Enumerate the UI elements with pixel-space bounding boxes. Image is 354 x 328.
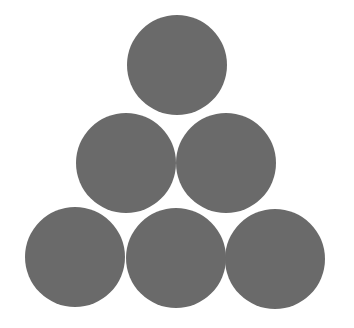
- circle-middle-left: [76, 113, 176, 213]
- circle-pyramid-diagram: [0, 0, 354, 328]
- circle-top: [127, 15, 227, 115]
- circle-bottom-right: [225, 209, 325, 309]
- circle-bottom-left: [25, 207, 125, 307]
- circle-bottom-center: [126, 208, 226, 308]
- circle-middle-right: [176, 113, 276, 213]
